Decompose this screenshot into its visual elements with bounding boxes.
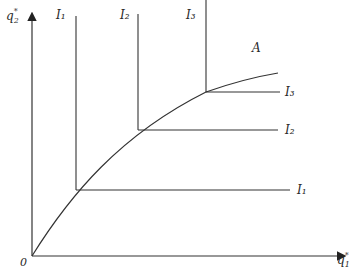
origin-label: 0 (20, 256, 27, 269)
leontief-isoquant-diagram: q2* q1* 0 A I₁ I₂ I₃ I₁ I₂ I₃ (0, 0, 356, 269)
isoquant-I1-right-label: I₁ (296, 183, 307, 197)
isoquant-I3 (206, 0, 280, 92)
expansion-path-curve (32, 73, 278, 256)
isoquant-I2 (138, 14, 278, 130)
isoquant-I1-top-label: I₁ (55, 8, 66, 22)
isoquant-I2-top-label: I₂ (119, 8, 130, 22)
diagram-canvas: q2* q1* 0 A I₁ I₂ I₃ I₁ I₂ I₃ (0, 0, 356, 269)
y-axis-label: q2* (6, 7, 19, 25)
isoquant-I3-top-label: I₃ (185, 8, 196, 22)
curve-a-label: A (251, 41, 261, 55)
isoquant-I3-right-label: I₃ (284, 85, 295, 99)
x-axis-label: q1* (337, 251, 350, 269)
isoquant-I2-right-label: I₂ (284, 123, 295, 137)
